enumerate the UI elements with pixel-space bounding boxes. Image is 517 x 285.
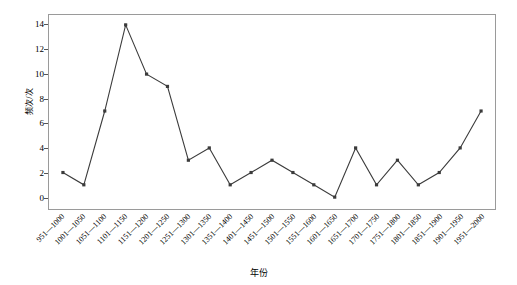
data-point — [250, 171, 253, 174]
data-point — [459, 146, 462, 149]
data-point — [333, 196, 336, 199]
data-point — [270, 159, 273, 162]
series-markers — [61, 23, 482, 198]
line-chart: 频次/次 02468101214 951—10001001—10501051—1… — [0, 0, 517, 285]
y-tick-label: 6 — [18, 118, 44, 128]
data-point — [124, 23, 127, 26]
data-point — [438, 171, 441, 174]
plot-frame — [48, 14, 496, 210]
data-point — [82, 183, 85, 186]
y-tick-label: 2 — [18, 168, 44, 178]
data-point — [187, 159, 190, 162]
series-line — [63, 25, 481, 197]
data-point — [417, 183, 420, 186]
data-point — [312, 183, 315, 186]
y-tick-label: 4 — [18, 143, 44, 153]
y-tick-label: 0 — [18, 193, 44, 203]
data-point — [479, 109, 482, 112]
y-tick-label: 10 — [18, 69, 44, 79]
x-axis-label: 年份 — [0, 266, 517, 279]
data-point — [354, 146, 357, 149]
y-tick-label: 8 — [18, 94, 44, 104]
y-tick-label: 14 — [18, 19, 44, 29]
data-point — [229, 183, 232, 186]
x-axis-ticks: 951—10001001—10501051—11001101—11501151—… — [48, 212, 496, 268]
data-point — [145, 73, 148, 76]
data-point — [291, 171, 294, 174]
data-point — [166, 85, 169, 88]
y-tick-label: 12 — [18, 44, 44, 54]
data-point — [103, 109, 106, 112]
data-point — [208, 146, 211, 149]
data-point — [375, 183, 378, 186]
data-point — [61, 171, 64, 174]
plot-area — [49, 15, 495, 209]
y-axis-ticks: 02468101214 — [14, 14, 44, 210]
data-point — [396, 159, 399, 162]
